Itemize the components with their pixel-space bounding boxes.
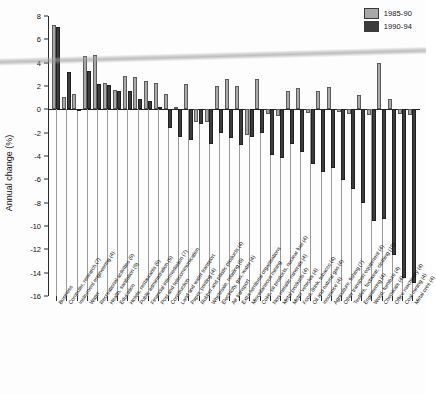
bar-1990-94 <box>168 109 172 128</box>
bar-1990-94 <box>97 84 101 110</box>
bar-1990-94 <box>138 99 142 110</box>
bar-1985-90 <box>83 56 87 110</box>
bar-1985-90 <box>347 109 351 114</box>
bar-1985-90 <box>377 63 381 110</box>
bar-1990-94 <box>351 109 355 188</box>
bar-1985-90 <box>225 79 229 109</box>
legend-item-1990-94: 1990-94 <box>364 21 412 32</box>
bar-1990-94 <box>392 109 396 255</box>
bar-1985-90 <box>408 109 412 115</box>
bar-1985-90 <box>52 25 56 109</box>
bar-1985-90 <box>144 81 148 109</box>
bar-1985-90 <box>286 91 290 110</box>
bar-1990-94 <box>250 109 254 137</box>
bar-1985-90 <box>164 94 168 109</box>
bar-1985-90 <box>205 109 209 122</box>
y-tick-label: -4 <box>15 152 41 161</box>
bar-1990-94 <box>260 109 264 132</box>
category-drop-rule <box>117 109 118 296</box>
bar-1990-94 <box>56 27 60 110</box>
bar-1985-90 <box>398 109 402 114</box>
bar-1985-90 <box>113 90 117 110</box>
scan-crease-artifact <box>0 46 426 66</box>
category-drop-rule <box>138 109 139 296</box>
bar-1985-90 <box>388 99 392 110</box>
bar-1985-90 <box>174 107 178 109</box>
category-drop-rule <box>260 109 261 296</box>
bar-1985-90 <box>255 79 259 109</box>
legend-swatch-1985-90 <box>364 8 379 19</box>
bar-1990-94 <box>178 109 182 137</box>
y-tick-label: -16 <box>15 292 41 301</box>
y-tick-label: 2 <box>15 82 41 91</box>
y-tick-label: -8 <box>15 198 41 207</box>
bar-1990-94 <box>412 109 416 283</box>
bar-1990-94 <box>280 109 284 158</box>
bar-1985-90 <box>93 55 97 110</box>
bar-1990-94 <box>341 109 345 180</box>
y-tick-label: 8 <box>15 12 41 21</box>
chart-legend: 1985-90 1990-94 <box>364 8 412 34</box>
y-tick-label: -14 <box>15 268 41 277</box>
y-axis-line <box>48 16 49 296</box>
bar-1990-94 <box>87 71 91 110</box>
bar-1990-94 <box>229 109 233 138</box>
legend-swatch-1990-94 <box>364 21 379 32</box>
bar-1985-90 <box>184 84 188 110</box>
legend-label-1985-90: 1985-90 <box>384 9 412 18</box>
bar-1990-94 <box>239 109 243 145</box>
bar-1990-94 <box>321 109 325 172</box>
y-axis-title: Annual change (%) <box>4 118 14 228</box>
bar-1990-94 <box>67 72 71 109</box>
bar-1985-90 <box>133 77 137 110</box>
bar-1985-90 <box>276 109 280 116</box>
bar-1985-90 <box>62 97 66 110</box>
bar-1985-90 <box>296 88 300 109</box>
bar-1990-94 <box>209 109 213 144</box>
y-tick-label: -10 <box>15 222 41 231</box>
bar-1990-94 <box>148 101 152 109</box>
category-drop-rule <box>127 109 128 296</box>
bar-1990-94 <box>402 109 406 278</box>
bar-1990-94 <box>158 107 162 109</box>
category-drop-rule <box>77 109 78 296</box>
y-tick-label: -2 <box>15 128 41 137</box>
bar-1990-94 <box>117 91 121 110</box>
bar-1990-94 <box>361 109 365 202</box>
bar-1990-94 <box>372 109 376 221</box>
category-drop-rule <box>107 109 108 296</box>
bar-1990-94 <box>290 109 294 144</box>
bar-1990-94 <box>300 109 304 152</box>
bar-1985-90 <box>154 83 158 110</box>
category-drop-rule <box>56 109 57 296</box>
bar-1990-94 <box>128 91 132 110</box>
bar-1985-90 <box>123 76 127 110</box>
bar-1985-90 <box>194 109 198 122</box>
y-tick-label: 6 <box>15 35 41 44</box>
bar-1990-94 <box>311 109 315 164</box>
category-drop-rule <box>66 109 67 296</box>
category-drop-rule <box>199 109 200 296</box>
bar-1985-90 <box>72 94 76 109</box>
bar-1990-94 <box>189 109 193 139</box>
bar-1990-94 <box>219 109 223 132</box>
category-drop-rule <box>168 109 169 296</box>
bar-1990-94 <box>77 109 81 111</box>
legend-label-1990-94: 1990-94 <box>384 22 412 31</box>
bar-1985-90 <box>215 86 219 109</box>
bar-1985-90 <box>357 95 361 109</box>
bar-1985-90 <box>103 83 107 110</box>
y-tick-label: -6 <box>15 175 41 184</box>
y-tick-label: 0 <box>15 105 41 114</box>
bar-1985-90 <box>327 87 331 109</box>
bar-1985-90 <box>235 86 239 109</box>
bar-1990-94 <box>107 85 111 110</box>
bar-1990-94 <box>382 109 386 219</box>
bar-1985-90 <box>316 91 320 110</box>
bar-1990-94 <box>270 109 274 155</box>
bar-1985-90 <box>306 109 310 113</box>
bar-1990-94 <box>331 109 335 167</box>
bar-1985-90 <box>245 109 249 135</box>
y-tick-label: 4 <box>15 58 41 67</box>
